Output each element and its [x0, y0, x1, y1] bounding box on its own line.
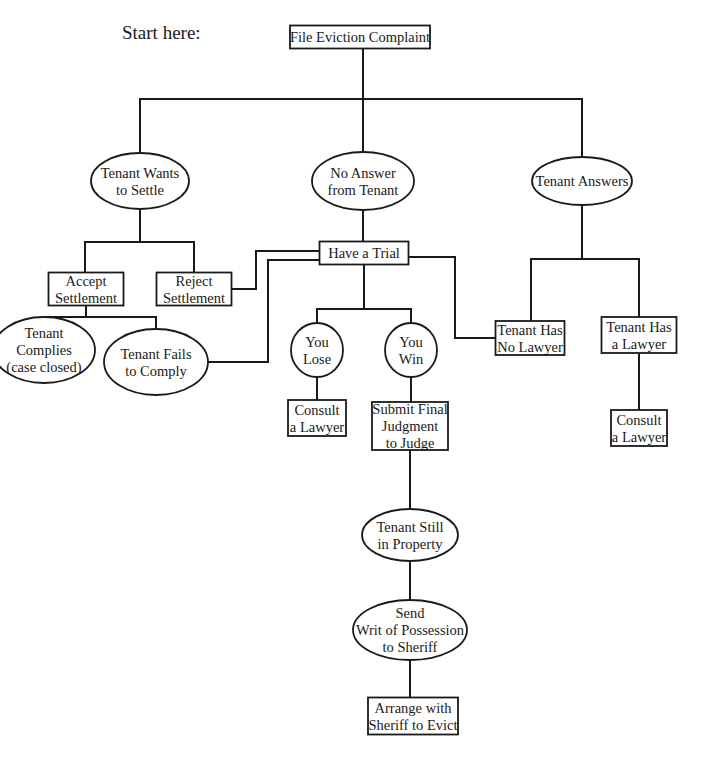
node-have-a-trial: Have a Trial: [320, 242, 409, 265]
edge-tenant-answers-to-tenant-has-a-lawyer: [582, 259, 639, 317]
edge-tenant-answers-to-tenant-has-no-lawyer: [531, 205, 582, 321]
node-tenant-complies: TenantComplies(case closed): [0, 317, 95, 383]
edge-have-a-trial-to-you-win: [364, 309, 411, 323]
node-label-line: Tenant Has: [497, 322, 563, 338]
node-label-line: Arrange with: [375, 700, 453, 716]
node-label-line: Writ of Possession: [356, 622, 465, 638]
node-label-line: Consult: [616, 412, 661, 428]
node-label-line: No Answer: [330, 165, 396, 181]
node-label-line: Tenant Still: [376, 519, 443, 535]
node-tenant-has-a-lawyer: Tenant Hasa Lawyer: [602, 317, 677, 353]
node-label-line: Judgment: [382, 418, 438, 434]
edge-tenant-wants-to-settle-to-reject-settlement: [140, 242, 194, 272]
node-label-line: Tenant Answers: [536, 173, 629, 189]
node-label-line: You: [399, 334, 423, 350]
node-label-line: (case closed): [6, 359, 81, 376]
node-label-line: Have a Trial: [328, 245, 400, 261]
node-label-line: to Comply: [125, 363, 187, 379]
node-label-line: Complies: [16, 342, 72, 358]
node-label-line: to Judge: [386, 435, 435, 451]
edge-reject-settlement-to-have-a-trial: [231, 251, 320, 289]
node-submit-final-judgment: Submit FinalJudgmentto Judge: [372, 401, 448, 451]
node-no-answer-from-tenant: No Answerfrom Tenant: [312, 152, 414, 210]
node-you-lose: YouLose: [291, 323, 343, 377]
node-tenant-wants-to-settle: Tenant Wantsto Settle: [91, 153, 189, 209]
node-send-writ-of-possession: SendWrit of Possessionto Sheriff: [353, 600, 467, 660]
node-label-line: to Sheriff: [383, 639, 438, 655]
node-label-line: You: [305, 334, 329, 350]
node-reject-settlement: RejectSettlement: [157, 273, 232, 306]
edge-tenant-wants-to-settle-to-accept-settlement: [85, 209, 140, 272]
node-label-line: No Lawyer: [497, 339, 563, 355]
node-label-line: Reject: [175, 273, 212, 289]
node-label-line: in Property: [378, 536, 444, 552]
node-accept-settlement: AcceptSettlement: [49, 273, 124, 306]
edge-accept-settlement-to-tenant-complies: [43, 305, 86, 317]
node-tenant-answers: Tenant Answers: [532, 157, 632, 205]
node-label-line: Tenant Has: [606, 319, 672, 335]
node-arrange-with-sheriff: Arrange withSheriff to Evict: [368, 698, 458, 735]
edge-file-eviction-complaint-to-tenant-wants-to-settle: [140, 48, 363, 153]
node-consult-a-lawyer-lose: Consulta Lawyer: [288, 400, 346, 436]
node-label-line: Consult: [294, 402, 339, 418]
nodes-layer: File Eviction ComplaintTenant Wantsto Se…: [0, 26, 677, 735]
node-label-line: Tenant: [24, 325, 63, 341]
edge-file-eviction-complaint-to-tenant-answers: [363, 99, 582, 157]
node-tenant-still-in-property: Tenant Stillin Property: [362, 509, 458, 561]
node-label-line: Tenant Wants: [101, 165, 180, 181]
node-label-line: File Eviction Complaint: [290, 29, 430, 45]
node-file-eviction-complaint: File Eviction Complaint: [290, 26, 430, 49]
node-label-line: a Lawyer: [612, 429, 667, 445]
node-label-line: from Tenant: [328, 182, 399, 198]
edge-have-a-trial-to-you-lose: [317, 265, 364, 323]
node-tenant-has-no-lawyer: Tenant HasNo Lawyer: [496, 321, 565, 355]
node-label-line: Win: [399, 351, 424, 367]
node-label-line: a Lawyer: [290, 419, 345, 435]
node-label-line: Lose: [303, 351, 331, 367]
edge-accept-settlement-to-tenant-fails-to-comply: [86, 317, 156, 329]
node-label-line: Sheriff to Evict: [368, 717, 457, 733]
node-label-line: Settlement: [55, 290, 117, 306]
node-label-line: Accept: [65, 273, 106, 289]
node-tenant-fails-to-comply: Tenant Failsto Comply: [104, 329, 208, 395]
node-label-line: Settlement: [163, 290, 225, 306]
node-label-line: Submit Final: [372, 401, 447, 417]
eviction-flowchart: File Eviction ComplaintTenant Wantsto Se…: [0, 0, 703, 767]
node-label-line: a Lawyer: [612, 336, 667, 352]
node-label-line: to Settle: [116, 182, 164, 198]
node-consult-a-lawyer-has-lawyer: Consulta Lawyer: [611, 410, 667, 446]
node-you-win: YouWin: [385, 323, 437, 377]
node-label-line: Tenant Fails: [120, 346, 191, 362]
node-label-line: Send: [396, 605, 426, 621]
